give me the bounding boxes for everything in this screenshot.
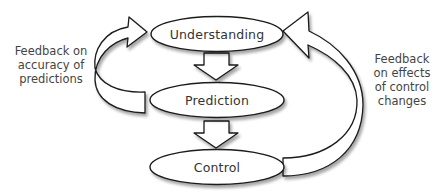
arrow-prediction-to-control [194,121,238,148]
feedback-arrow-right [283,12,363,176]
feedback-left-line-1: Feedback on [12,44,90,58]
feedback-right-line-4: changes [366,94,438,108]
feedback-arrow-left [95,17,147,113]
feedback-right-line-2: on effects [366,66,438,80]
node-understanding: Understanding [170,27,265,42]
arrow-understanding-to-prediction [194,53,238,80]
feedback-right-label: Feedback on effects of control changes [366,52,438,108]
feedback-left-line-2: accuracy of [12,58,90,72]
node-control: Control [194,160,241,175]
feedback-right-line-1: Feedback [366,52,438,66]
feedback-left-line-3: predictions [12,72,90,86]
node-prediction: Prediction [185,93,249,108]
feedback-right-line-3: of control [366,80,438,94]
feedback-left-label: Feedback on accuracy of predictions [12,44,90,86]
